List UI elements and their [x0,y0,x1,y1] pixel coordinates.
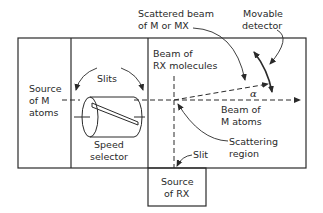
scattering-region-label: Scattering region [229,136,281,159]
beam-rx-label: Beam of RX molecules [153,48,217,71]
slit-label: Slit [193,149,208,160]
movable-detector-label: Movable detector [242,8,286,31]
beam-m-label: Beam of M atoms [221,104,264,127]
slit-leader [177,155,192,166]
scattered-beam-label: Scattered beam of M or MX [138,8,217,31]
speed-selector-label: Speed selector [90,139,128,162]
alpha-label: α [250,88,257,99]
scattered-beam-leader [193,28,245,80]
source-m-label: Source of M atoms [29,83,65,118]
slits-label: Slits [97,73,117,84]
source-rx-box [148,168,206,206]
movable-detector-leader [270,30,283,64]
molecular-beam-diagram: Scattered beam of M or MX Movable detect… [0,0,323,213]
source-rx-label: Source of RX [161,176,197,199]
speed-selector [74,97,145,137]
slits-arrow-right [121,68,143,90]
slits-arrow-left [76,68,97,90]
